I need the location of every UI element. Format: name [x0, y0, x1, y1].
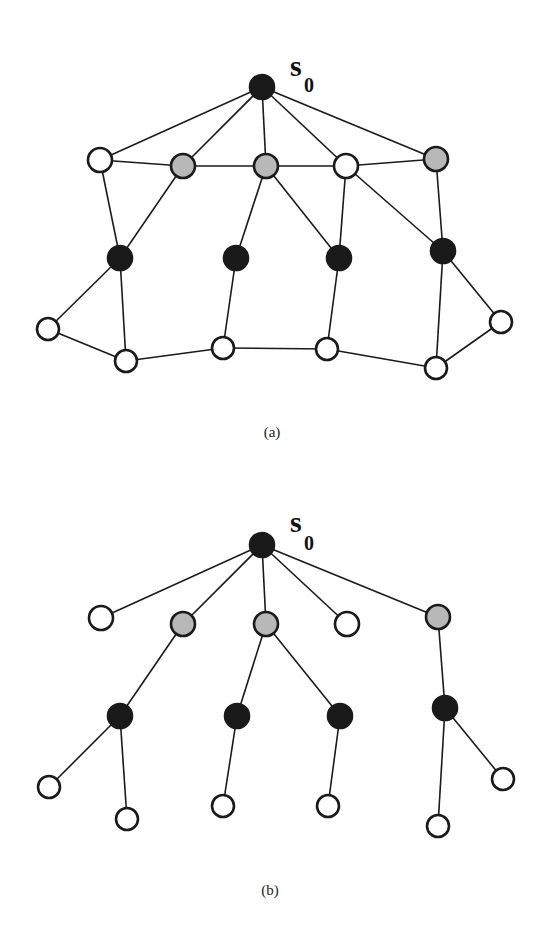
node-white-r3e [427, 815, 449, 837]
figure-b-caption: (b) [261, 882, 279, 899]
node-white-r1d [334, 154, 358, 178]
figure-a: s 0 (a) [37, 49, 512, 441]
node-white-r3b [115, 350, 137, 372]
node-white-r1a [88, 148, 112, 172]
edge-r2b-r3c [223, 716, 237, 806]
figure-b-edges [49, 545, 503, 826]
edge-r1d-r1e [346, 159, 436, 166]
node-white-r1a [89, 606, 113, 630]
edge-r1b-r2a [120, 624, 183, 716]
node-gray-r1c [254, 612, 278, 636]
node-black-s0 [250, 533, 274, 557]
figure-b: s 0 (b) [38, 505, 514, 899]
edge-r2d-r3f [445, 708, 503, 779]
edge-r1e-r2d [438, 617, 445, 708]
edge-r1d-r2c [339, 166, 346, 258]
graph-canvas: s 0 (a) s 0 (b) [0, 0, 544, 942]
edge-r2a-r3a [48, 258, 120, 329]
edge-r2a-r3b [120, 716, 127, 819]
edge-s0-r1a [100, 87, 262, 160]
edge-r2a-r3b [120, 258, 126, 361]
edge-s0-r1d [262, 545, 347, 624]
figure-a-caption: (a) [264, 424, 281, 441]
node-black-r2b [225, 704, 249, 728]
node-white-r3a [38, 776, 60, 798]
edge-r1a-r2a [100, 160, 120, 258]
edge-s0-r1d [262, 87, 346, 166]
edge-r3d-r3e [327, 349, 436, 368]
edge-r1d-r2d [346, 166, 443, 251]
edge-r1b-r2a [120, 166, 183, 258]
edge-r3b-r3c [126, 348, 223, 361]
node-white-r3f [492, 768, 514, 790]
edge-s0-r1b [183, 545, 262, 624]
edge-r2c-r3d [327, 258, 339, 349]
edge-s0-r1e [262, 87, 436, 159]
node-white-r1d [335, 612, 359, 636]
edge-r3a-r3b [48, 329, 126, 361]
figure-a-root-subscript: 0 [304, 74, 314, 96]
edge-r2d-r3f [443, 251, 501, 322]
node-black-r2d [431, 239, 455, 263]
node-gray-r1b [171, 612, 195, 636]
edge-s0-r1a [101, 545, 262, 618]
node-white-r3c [212, 337, 234, 359]
edge-r2d-r3e [436, 251, 443, 368]
edge-s0-r1b [183, 87, 262, 166]
edge-r1e-r2d [436, 159, 443, 251]
figure-b-root-subscript: 0 [304, 532, 314, 554]
node-gray-r1e [426, 605, 450, 629]
node-gray-r1e [424, 147, 448, 171]
figure-a-root-label: s [290, 49, 302, 82]
figure-a-edges [48, 87, 501, 368]
node-black-s0 [250, 75, 274, 99]
edge-s0-r1e [262, 545, 438, 617]
edge-r2a-r3a [49, 716, 120, 787]
node-black-r2a [108, 246, 132, 270]
node-white-r3b [116, 808, 138, 830]
edge-r2c-r3d [328, 716, 340, 806]
edge-r1c-r2c [266, 166, 339, 258]
edge-r2d-r3e [438, 708, 445, 826]
node-gray-r1b [171, 154, 195, 178]
edge-r2b-r3c [223, 258, 236, 348]
node-black-r2b [224, 246, 248, 270]
figure-b-root-label: s [290, 505, 302, 538]
node-black-r2a [108, 704, 132, 728]
node-black-r2d [433, 696, 457, 720]
node-black-r2c [328, 704, 352, 728]
node-white-r3e [425, 357, 447, 379]
node-white-r3d [316, 338, 338, 360]
edge-r1c-r2b [237, 624, 266, 716]
edge-r1c-r2b [236, 166, 266, 258]
node-white-r3d [317, 795, 339, 817]
edge-r1c-r2c [266, 624, 340, 716]
node-white-r3a [37, 318, 59, 340]
edge-r3c-r3d [223, 348, 327, 349]
node-black-r2c [327, 246, 351, 270]
node-gray-r1c [254, 154, 278, 178]
node-white-r3f [490, 311, 512, 333]
node-white-r3c [212, 795, 234, 817]
